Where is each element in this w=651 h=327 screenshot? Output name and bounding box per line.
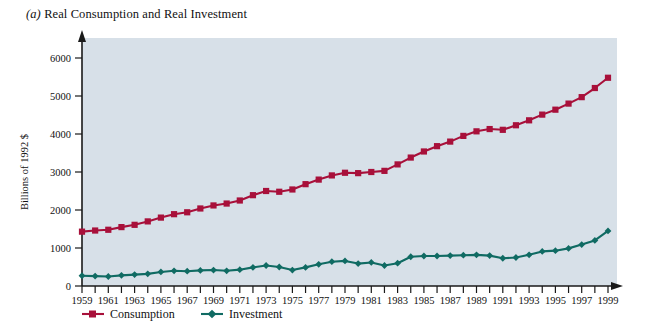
data-point-consumption-1993 bbox=[526, 117, 532, 123]
data-point-consumption-1965 bbox=[158, 215, 164, 221]
legend-marker-consumption bbox=[89, 311, 96, 318]
data-point-consumption-1994 bbox=[539, 112, 545, 118]
chart-legend: Consumption Investment bbox=[82, 307, 283, 321]
data-point-consumption-1974 bbox=[276, 189, 282, 195]
x-tick-label-1959: 1959 bbox=[72, 295, 93, 306]
plot-background bbox=[82, 38, 617, 286]
x-tick-label-1975: 1975 bbox=[282, 295, 303, 306]
data-point-consumption-1960 bbox=[92, 227, 98, 233]
y-tick-label-4000: 4000 bbox=[50, 129, 71, 140]
legend-label-consumption: Consumption bbox=[110, 307, 175, 321]
x-tick-label-1983: 1983 bbox=[387, 295, 408, 306]
data-point-consumption-1985 bbox=[421, 148, 427, 154]
data-point-consumption-1963 bbox=[132, 222, 138, 228]
y-tick-label-6000: 6000 bbox=[50, 53, 71, 64]
y-tick-label-3000: 3000 bbox=[50, 167, 71, 178]
data-point-consumption-1964 bbox=[145, 218, 151, 224]
x-axis-ticks bbox=[82, 286, 608, 293]
x-tick-label-1969: 1969 bbox=[203, 295, 224, 306]
data-point-consumption-1962 bbox=[118, 224, 124, 230]
data-point-consumption-1976 bbox=[302, 181, 308, 187]
data-point-consumption-1988 bbox=[460, 133, 466, 139]
x-tick-label-1963: 1963 bbox=[124, 295, 145, 306]
x-tick-label-1989: 1989 bbox=[466, 295, 487, 306]
data-point-consumption-1983 bbox=[395, 161, 401, 167]
data-point-consumption-1990 bbox=[487, 126, 493, 132]
x-tick-label-1971: 1971 bbox=[229, 295, 250, 306]
x-tick-label-1991: 1991 bbox=[492, 295, 513, 306]
data-point-consumption-1986 bbox=[434, 143, 440, 149]
data-point-consumption-1972 bbox=[250, 192, 256, 198]
data-point-consumption-1969 bbox=[210, 202, 216, 208]
x-axis-tick-labels: 1959196119631965196719691971197319751977… bbox=[72, 295, 619, 306]
data-point-consumption-1999 bbox=[605, 75, 611, 81]
data-point-consumption-1997 bbox=[579, 94, 585, 100]
x-tick-label-1995: 1995 bbox=[545, 295, 566, 306]
data-point-consumption-1970 bbox=[224, 200, 230, 206]
data-point-consumption-1971 bbox=[237, 197, 243, 203]
x-tick-label-1977: 1977 bbox=[308, 295, 329, 306]
legend-item-consumption[interactable]: Consumption bbox=[82, 307, 175, 321]
figure-panel-a: (a) Real Consumption and Real Investment… bbox=[0, 0, 651, 327]
data-point-consumption-1992 bbox=[513, 122, 519, 128]
legend-item-investment[interactable]: Investment bbox=[201, 307, 283, 321]
data-point-consumption-1996 bbox=[565, 101, 571, 107]
x-tick-label-1993: 1993 bbox=[519, 295, 540, 306]
legend-label-investment: Investment bbox=[229, 307, 283, 321]
chart-plot: 0 1000 2000 3000 4000 5000 6000 Billions… bbox=[0, 0, 651, 327]
x-tick-label-1985: 1985 bbox=[413, 295, 434, 306]
data-point-consumption-1995 bbox=[552, 107, 558, 113]
data-point-consumption-1966 bbox=[171, 211, 177, 217]
x-tick-label-1999: 1999 bbox=[598, 295, 619, 306]
y-axis-arrow bbox=[78, 30, 86, 42]
data-point-consumption-1967 bbox=[184, 209, 190, 215]
x-tick-label-1961: 1961 bbox=[98, 295, 119, 306]
data-point-consumption-1991 bbox=[500, 127, 506, 133]
y-tick-label-0: 0 bbox=[66, 281, 71, 292]
data-point-consumption-1998 bbox=[592, 85, 598, 91]
data-point-consumption-1979 bbox=[342, 170, 348, 176]
y-tick-label-2000: 2000 bbox=[50, 205, 71, 216]
y-tick-label-5000: 5000 bbox=[50, 91, 71, 102]
x-tick-label-1997: 1997 bbox=[571, 295, 592, 306]
data-point-consumption-1973 bbox=[263, 188, 269, 194]
x-tick-label-1967: 1967 bbox=[177, 295, 198, 306]
data-point-consumption-1980 bbox=[355, 170, 361, 176]
data-point-consumption-1989 bbox=[473, 128, 479, 134]
data-point-consumption-1987 bbox=[447, 139, 453, 145]
x-tick-label-1981: 1981 bbox=[361, 295, 382, 306]
x-tick-label-1979: 1979 bbox=[335, 295, 356, 306]
data-point-consumption-1977 bbox=[316, 177, 322, 183]
legend-marker-investment bbox=[208, 310, 217, 318]
y-axis-label: Billions of 1992 $ bbox=[19, 134, 30, 210]
data-point-consumption-1984 bbox=[408, 154, 414, 160]
data-point-consumption-1982 bbox=[381, 168, 387, 174]
data-point-consumption-1961 bbox=[105, 227, 111, 233]
y-tick-label-1000: 1000 bbox=[50, 243, 71, 254]
y-axis-ticks: 0 1000 2000 3000 4000 5000 6000 bbox=[50, 53, 82, 292]
data-point-consumption-1981 bbox=[368, 169, 374, 175]
x-tick-label-1965: 1965 bbox=[150, 295, 171, 306]
data-point-consumption-1978 bbox=[329, 172, 335, 178]
data-point-consumption-1959 bbox=[79, 229, 85, 235]
x-tick-label-1973: 1973 bbox=[256, 295, 277, 306]
x-tick-label-1987: 1987 bbox=[440, 295, 461, 306]
data-point-consumption-1968 bbox=[197, 205, 203, 211]
data-point-consumption-1975 bbox=[289, 186, 295, 192]
